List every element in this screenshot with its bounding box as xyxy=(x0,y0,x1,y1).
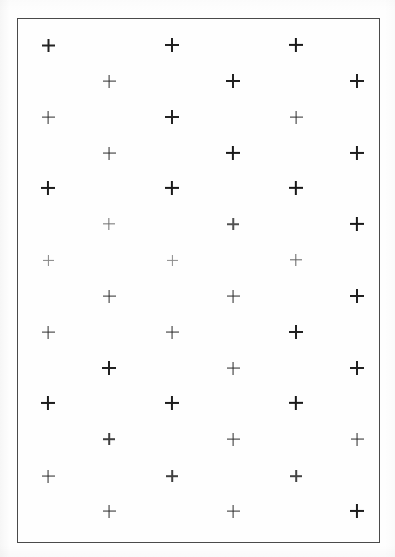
cross-mark xyxy=(226,74,240,88)
cross-bar-vertical xyxy=(171,396,173,410)
cross-bar-vertical xyxy=(356,504,358,518)
cross-mark xyxy=(41,181,55,195)
cross-bar-vertical xyxy=(295,254,296,266)
cross-mark xyxy=(42,111,55,124)
cross-bar-vertical xyxy=(295,470,297,482)
cross-mark xyxy=(103,505,116,518)
cross-bar-vertical xyxy=(108,361,110,375)
cross-mark xyxy=(43,255,54,266)
cross-mark xyxy=(351,433,364,446)
cross-bar-vertical xyxy=(171,255,172,266)
cross-mark xyxy=(350,361,364,375)
cross-bar-vertical xyxy=(295,111,297,124)
cross-mark xyxy=(227,433,240,446)
cross-mark xyxy=(227,218,239,230)
cross-bar-vertical xyxy=(108,433,110,445)
cross-mark xyxy=(290,470,302,482)
cross-bar-vertical xyxy=(171,470,173,482)
cross-mark xyxy=(289,325,303,339)
cross-bar-vertical xyxy=(47,326,49,339)
cross-bar-vertical xyxy=(232,146,234,160)
cross-bar-vertical xyxy=(108,290,110,303)
cross-bar-vertical xyxy=(108,75,110,88)
cross-mark xyxy=(350,74,364,88)
cross-bar-vertical xyxy=(295,325,297,339)
cross-mark xyxy=(350,289,364,303)
cross-mark xyxy=(226,146,240,160)
cross-mark xyxy=(290,111,303,124)
cross-mark xyxy=(103,218,115,230)
cross-bar-vertical xyxy=(356,361,358,375)
figure-canvas xyxy=(0,0,395,557)
cross-mark xyxy=(289,38,303,52)
cross-bar-vertical xyxy=(295,38,297,52)
cross-mark xyxy=(165,110,179,124)
cross-mark xyxy=(103,75,116,88)
cross-bar-vertical xyxy=(47,181,49,195)
cross-bar-vertical xyxy=(47,111,49,124)
cross-mark xyxy=(102,361,116,375)
cross-bar-vertical xyxy=(356,433,358,446)
cross-bar-vertical xyxy=(171,326,173,339)
cross-bar-vertical xyxy=(232,433,234,446)
cross-mark xyxy=(103,290,116,303)
cross-bar-vertical xyxy=(47,39,49,52)
cross-mark xyxy=(289,181,303,195)
cross-bar-vertical xyxy=(232,505,234,518)
cross-bar-vertical xyxy=(356,146,358,160)
cross-mark xyxy=(350,217,364,231)
cross-mark xyxy=(166,326,179,339)
cross-mark xyxy=(165,38,179,52)
cross-mark xyxy=(290,254,302,266)
cross-mark xyxy=(227,505,240,518)
cross-bar-vertical xyxy=(108,218,109,230)
cross-bar-vertical xyxy=(171,181,173,195)
cross-bar-vertical xyxy=(232,290,234,303)
cross-mark xyxy=(41,396,55,410)
cross-mark xyxy=(166,470,178,482)
cross-bar-vertical xyxy=(356,217,358,231)
cross-mark xyxy=(350,146,364,160)
cross-mark xyxy=(165,181,179,195)
cross-mark xyxy=(289,396,303,410)
cross-bar-vertical xyxy=(295,181,297,195)
cross-bar-vertical xyxy=(232,74,234,88)
cross-mark xyxy=(167,255,178,266)
cross-mark xyxy=(227,290,240,303)
cross-bar-vertical xyxy=(47,470,49,483)
cross-mark xyxy=(42,39,55,52)
cross-mark xyxy=(165,396,179,410)
cross-bar-vertical xyxy=(108,505,110,518)
cross-mark xyxy=(42,470,55,483)
cross-mark xyxy=(42,326,55,339)
cross-bar-vertical xyxy=(232,218,234,230)
cross-bar-vertical xyxy=(295,396,297,410)
cross-bar-vertical xyxy=(47,255,48,266)
cross-bar-vertical xyxy=(171,38,173,52)
cross-bar-vertical xyxy=(171,110,173,124)
cross-bar-vertical xyxy=(356,289,358,303)
plot-border xyxy=(17,18,380,543)
cross-mark xyxy=(103,433,115,445)
cross-bar-vertical xyxy=(47,396,49,410)
cross-mark xyxy=(227,362,240,375)
cross-bar-vertical xyxy=(356,74,358,88)
cross-bar-vertical xyxy=(108,147,110,160)
cross-mark xyxy=(103,147,116,160)
cross-mark xyxy=(350,504,364,518)
cross-bar-vertical xyxy=(232,362,234,375)
